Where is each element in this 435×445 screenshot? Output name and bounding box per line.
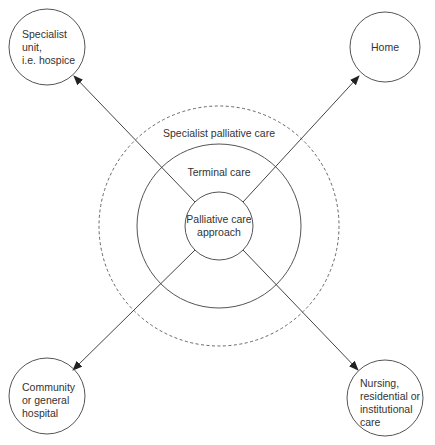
specialist-palliative-care-label: Specialist palliative care <box>140 127 298 140</box>
hospital-line-3: hospital <box>22 407 82 420</box>
nursing-line-2: residential or <box>360 390 435 403</box>
hospice-line-1: Specialist <box>22 28 82 41</box>
hospice-label: Specialist unit, i.e. hospice <box>22 28 82 67</box>
nursing-care-label: Nursing, residential or institutional ca… <box>360 377 435 429</box>
home-line-1: Home <box>355 41 415 54</box>
arrow-to-nursing-care <box>243 250 358 370</box>
hospice-line-3: i.e. hospice <box>22 54 82 67</box>
terminal-care-label: Terminal care <box>170 166 268 179</box>
palliative-care-line-1: Palliative care <box>179 213 259 226</box>
hospice-line-2: unit, <box>22 41 82 54</box>
palliative-care-line-2: approach <box>179 226 259 239</box>
palliative-care-approach-label: Palliative care approach <box>179 213 259 239</box>
hospital-label: Community or general hospital <box>22 381 82 420</box>
hospital-line-1: Community <box>22 381 82 394</box>
nursing-line-1: Nursing, <box>360 377 435 390</box>
nursing-line-4: care <box>360 416 435 429</box>
hospital-line-2: or general <box>22 394 82 407</box>
arrow-to-hospital <box>73 250 195 370</box>
home-label: Home <box>355 41 415 54</box>
nursing-line-3: institutional <box>360 403 435 416</box>
